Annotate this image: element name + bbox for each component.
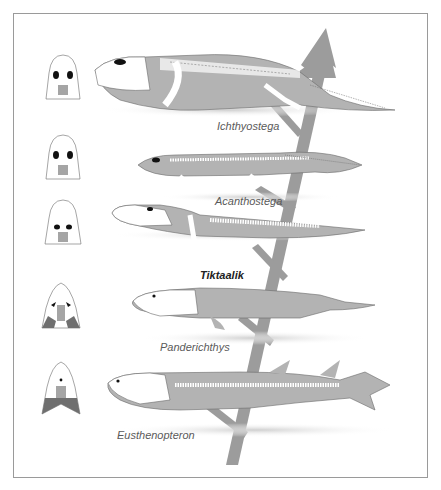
- skull-roof-icon: [46, 135, 80, 179]
- skull-roof-icon: [45, 200, 81, 244]
- skull-roof-icon: [42, 362, 80, 414]
- taxon-label-ichthyostega: Ichthyostega: [217, 120, 279, 132]
- taxon-label-acanthostega: Acanthostega: [215, 195, 282, 207]
- evolution-diagram: [0, 0, 441, 490]
- skull-roof-icon: [46, 55, 80, 99]
- ichthyostega-illustration: [95, 55, 395, 111]
- taxon-label-eusthenopteron: Eusthenopteron: [117, 429, 195, 441]
- acanthostega-illustration: [138, 152, 362, 185]
- taxon-label-panderichthys: Panderichthys: [160, 341, 230, 353]
- skull-roof-icon: [42, 283, 80, 328]
- taxon-label-tiktaalik: Tiktaalik: [200, 269, 244, 281]
